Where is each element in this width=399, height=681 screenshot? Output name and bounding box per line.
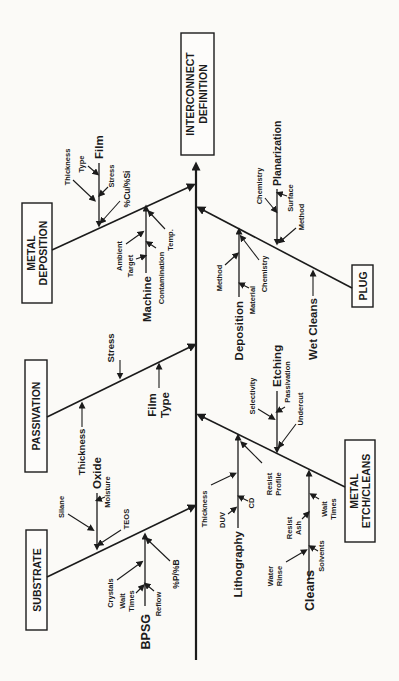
film-type-label-line2: Type — [159, 392, 171, 418]
planarization-method-label: Method — [297, 203, 306, 230]
p-b-label: %P/%B — [171, 559, 181, 588]
passivation-thickness-label: Thickness — [76, 429, 87, 475]
substrate-box-label: SUBSTRATE — [31, 548, 43, 611]
resist-profile-arrow — [244, 445, 262, 463]
silane-arrow — [68, 514, 90, 528]
target-arrow — [136, 257, 142, 259]
etching-label: Etching — [271, 345, 283, 387]
scanned-fishbone-page: INTERCONNECT DEFINITION SUBSTRATE PASSIV… — [0, 0, 399, 681]
litho-thickness-label: Thickness — [200, 491, 209, 528]
film-thickness-arrow — [73, 180, 92, 198]
resist-profile-label-line1: Resist — [265, 472, 274, 495]
resist-ash-label-line2: Ash — [294, 520, 303, 535]
film-label: Film — [93, 135, 105, 159]
silane-label: Silane — [57, 496, 66, 518]
water-rinse-label-line2: Rinse — [275, 566, 284, 586]
cleans-wait-label: Wait — [320, 501, 329, 517]
target-label: Target — [126, 254, 135, 277]
cleans-label: Cleans — [303, 570, 317, 611]
substrate-bone — [47, 508, 190, 577]
metal-etch-cleans-box-line1: METAL — [348, 473, 360, 509]
passivation-stress-label: Stress — [105, 333, 116, 362]
wet-cleans-label: Wet Cleans — [307, 298, 319, 360]
water-rinse-label-line1: Water — [266, 566, 275, 587]
teos-arrow — [101, 530, 121, 543]
crystals-arrow — [117, 564, 139, 580]
duv-label: DUV — [218, 512, 227, 528]
oxide-label: Oxide — [91, 457, 103, 489]
plug-box-label: PLUG — [357, 271, 369, 300]
reflow-label: Reflow — [154, 592, 163, 617]
metal-deposition-box-line2: DEPOSITION — [37, 221, 49, 286]
planarization-method-arrow — [282, 228, 296, 240]
resist-ash-label-line1: Resist — [285, 516, 294, 539]
material-label: Material — [248, 286, 257, 314]
bpsg-times-label: Times — [127, 590, 136, 612]
teos-label: TEOS — [122, 509, 131, 529]
bpsg-label: BPSG — [139, 614, 153, 649]
head-title-line2: DEFINITION — [197, 64, 209, 124]
crystals-label: Crystals — [106, 578, 115, 608]
bpsg-wait-label: Wait — [118, 593, 127, 609]
etching-passivation-label: Passivation — [283, 361, 292, 403]
head-title-line1: INTERCONNECT — [184, 52, 196, 136]
metal-deposition-box-line1: METAL — [25, 235, 37, 271]
etching-passivation-arrow — [280, 407, 285, 410]
cleans-wait-times-arrow — [314, 496, 319, 499]
ambient-arrow — [126, 234, 140, 244]
fishbone-diagram: INTERCONNECT DEFINITION SUBSTRATE PASSIV… — [0, 0, 399, 681]
deposition-method-label: Method — [215, 264, 224, 291]
film-stress-arrow — [102, 187, 108, 193]
film-stress-label: Stress — [107, 165, 116, 188]
machine-label: Machine — [141, 276, 153, 322]
cleans-times-label: Times — [329, 498, 338, 520]
film-thickness-label: Thickness — [63, 149, 72, 186]
duv-arrow — [228, 510, 233, 514]
bpsg-wait-times-arrow — [136, 588, 141, 593]
resist-ash-arrow — [302, 515, 306, 519]
undercut-arrow — [281, 424, 296, 444]
lithography-label: Lithography — [232, 530, 244, 597]
film-type-label-line1: Film — [146, 393, 158, 417]
surface-label: Surface — [286, 184, 295, 212]
selectivity-label: Selectivity — [248, 377, 257, 415]
cu-si-arrow — [103, 201, 120, 220]
metal-etch-cleans-box-line2: ETCH/CLEANS — [360, 454, 372, 529]
planarization-chemistry-arrow — [265, 198, 274, 209]
film-type-label: Type — [77, 156, 86, 173]
moisture-label: Moisture — [103, 476, 112, 507]
ambient-label: Ambient — [115, 240, 124, 271]
selectivity-arrow — [258, 409, 271, 417]
planarization-chemistry-label: Chemistry — [255, 167, 264, 205]
litho-thickness-arrow — [211, 475, 232, 485]
deposition-label: Deposition — [233, 301, 245, 360]
cd-label: CD — [247, 497, 256, 508]
resist-profile-label-line2: Profile — [274, 472, 283, 495]
reflow-arrow — [148, 586, 154, 591]
contamination-arrow — [150, 244, 156, 248]
temp-label: Temp. — [166, 229, 175, 251]
film-type-arrow — [88, 166, 95, 172]
undercut-label: Undercut — [296, 392, 305, 425]
solvents-label: Solvents — [317, 540, 326, 571]
contamination-label: Contamination — [157, 251, 166, 304]
p-b-arrow — [149, 541, 170, 561]
cu-si-label: %Cu/%Si — [122, 171, 132, 208]
deposition-chemistry-arrow — [243, 239, 259, 260]
temp-arrow — [151, 214, 165, 229]
deposition-chemistry-label: Chemistry — [260, 255, 269, 293]
deposition-method-arrow — [225, 256, 235, 265]
planarization-label: Planarization — [271, 121, 283, 186]
water-rinse-arrow — [286, 552, 303, 562]
passivation-box-label: PASSIVATION — [30, 382, 42, 451]
